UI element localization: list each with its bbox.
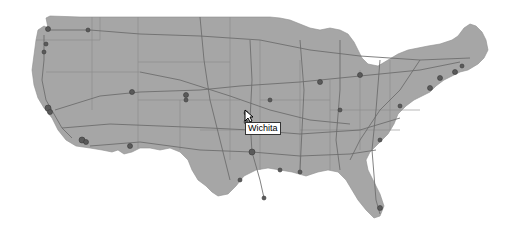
city-marker[interactable] (460, 64, 464, 68)
city-marker[interactable] (184, 93, 189, 98)
city-marker[interactable] (48, 110, 53, 115)
city-marker[interactable] (318, 80, 323, 85)
city-marker[interactable] (44, 42, 48, 46)
city-marker[interactable] (378, 138, 382, 142)
city-tooltip: Wichita (245, 122, 281, 135)
city-marker[interactable] (438, 76, 443, 81)
city-marker[interactable] (453, 70, 458, 75)
city-marker[interactable] (184, 98, 188, 102)
city-marker[interactable] (338, 108, 342, 112)
city-marker[interactable] (378, 206, 383, 211)
city-marker[interactable] (130, 90, 135, 95)
city-marker[interactable] (262, 196, 266, 200)
city-marker[interactable] (84, 140, 89, 145)
city-marker[interactable] (398, 104, 402, 108)
city-marker[interactable] (128, 144, 133, 149)
city-marker[interactable] (298, 170, 302, 174)
city-marker[interactable] (358, 73, 363, 78)
city-marker[interactable] (238, 178, 242, 182)
city-marker[interactable] (268, 98, 272, 102)
us-map[interactable] (0, 0, 517, 229)
city-marker[interactable] (278, 168, 282, 172)
city-marker[interactable] (86, 28, 90, 32)
city-marker[interactable] (428, 86, 433, 91)
city-marker[interactable] (46, 27, 51, 32)
city-marker[interactable] (42, 50, 46, 54)
city-marker[interactable] (249, 149, 255, 155)
